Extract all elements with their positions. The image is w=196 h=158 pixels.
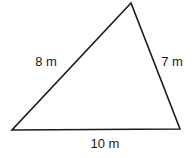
side-label-right: 7 m — [161, 54, 183, 69]
side-label-left: 8 m — [35, 54, 57, 69]
triangle-diagram: 8 m 7 m 10 m — [0, 0, 196, 158]
side-label-bottom: 10 m — [91, 136, 120, 151]
